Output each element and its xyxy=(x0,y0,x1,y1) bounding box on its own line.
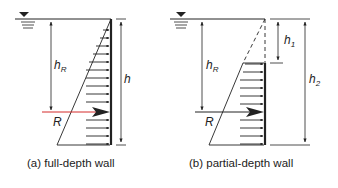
water-level-icon xyxy=(19,12,35,28)
caption-b: (b) partial-depth wall xyxy=(189,157,293,169)
caption-a: (a) full-depth wall xyxy=(27,157,115,169)
resultant-label: R xyxy=(53,115,62,129)
pressure-arrows xyxy=(240,64,263,144)
resultant-label: R xyxy=(205,115,214,129)
h2-label: h2 xyxy=(309,72,321,88)
pressure-arrows xyxy=(86,30,109,144)
hydrostatic-wall-diagram: R hR h (a) full-depth wall xyxy=(0,0,338,188)
panel-a-full-depth-wall: R hR h (a) full-depth wall xyxy=(15,12,131,169)
triangle-projection-dashed xyxy=(243,19,265,63)
h-label: h xyxy=(124,72,131,86)
panel-b-partial-depth-wall: R hR h1 h2 (b) partial-depth wall xyxy=(170,12,321,169)
hR-label: hR xyxy=(206,58,219,74)
water-level-icon xyxy=(174,12,188,28)
hR-label: hR xyxy=(54,58,67,74)
h1-label: h1 xyxy=(284,33,295,49)
